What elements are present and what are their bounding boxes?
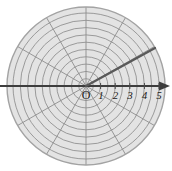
radial-tick-label-4: 4 — [142, 89, 148, 101]
radial-tick-label-3: 3 — [126, 89, 133, 101]
pole-label-O: O — [82, 88, 91, 102]
radial-tick-label-5: 5 — [156, 89, 162, 101]
radial-tick-label-1: 1 — [98, 89, 104, 101]
polar-plot-svg: O 1 2 3 4 5 — [0, 0, 172, 171]
polar-plot-figure: O 1 2 3 4 5 — [0, 0, 172, 171]
radial-tick-label-2: 2 — [113, 89, 119, 101]
